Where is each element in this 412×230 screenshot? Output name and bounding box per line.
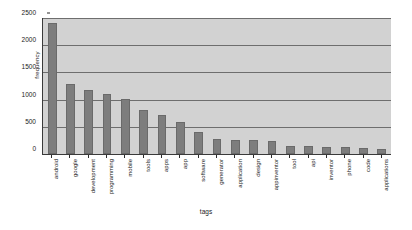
bar [231,140,240,154]
x-axis-tick-mark [289,155,290,158]
x-axis-tick-mark [308,155,309,158]
x-axis-tick-label: appinventor [273,159,279,190]
plot-area [42,18,391,155]
x-axis-tick-labels: androidgoogledevelopmentprogrammingmobil… [42,159,391,205]
x-axis-tick-mark [179,155,180,158]
y-axis-tick-label: 1500 [8,64,36,71]
x-axis-tick-label: api [310,159,316,167]
x-axis-tick-label: code [365,159,371,172]
x-axis-tick-label: applications [383,159,389,191]
x-axis-tick-mark [253,155,254,158]
bar [249,140,258,154]
x-axis-tick-label: programming [108,159,114,194]
bar [48,23,57,154]
y-axis-tick-label: 2500 [8,10,36,17]
x-axis-tick-label: mobile [127,159,133,177]
x-axis-tick-mark [326,155,327,158]
y-axis-tick-label: 0 [8,146,36,153]
x-axis-tick-mark [381,155,382,158]
bar-chart: frequency 05001000150020002500 androidgo… [0,0,412,230]
y-axis-tick-label: 2000 [8,37,36,44]
y-axis-tick-labels: 05001000150020002500 [8,13,36,155]
x-axis-tick-label: generator [218,159,224,185]
x-axis-tick-label: phone [346,159,352,176]
x-axis-tick-label: design [255,159,261,177]
x-axis-tick-label: inventor [328,159,334,180]
x-axis-tick-mark [271,155,272,158]
bar [304,146,313,154]
bar [286,146,295,154]
x-axis-tick-mark [234,155,235,158]
x-axis-tick-mark [198,155,199,158]
x-axis-tick-mark [51,155,52,158]
x-axis-tick-label: app [182,159,188,169]
bar [194,132,203,154]
bar [103,94,112,154]
bar-series [43,18,391,154]
bar [377,149,386,154]
x-axis-tick-mark [88,155,89,158]
x-axis-tick-mark [106,155,107,158]
bar [139,110,148,154]
x-axis-tick-label: tool [291,159,297,169]
bar [341,147,350,154]
x-axis-tick-mark [69,155,70,158]
x-axis-tick-mark [344,155,345,158]
x-axis-tick-label: application [237,159,243,188]
bar [121,99,130,154]
bar [268,141,277,154]
bar [213,139,222,154]
x-axis-tick-label: google [72,159,78,177]
x-axis-tick-mark [161,155,162,158]
y-axis-tick-label: 1000 [8,91,36,98]
x-axis-tick-label: apps [163,159,169,172]
bar [84,90,93,154]
x-axis-tick-mark [363,155,364,158]
y-axis-tick-mark [47,13,50,14]
bar [66,84,75,154]
x-axis-tick-mark [216,155,217,158]
bar [176,122,185,154]
y-axis-tick-label: 500 [8,119,36,126]
x-axis-tick-label: tools [145,159,151,172]
x-axis-tick-label: software [200,159,206,182]
x-axis-tick-label: android [53,159,59,179]
bar [322,147,331,154]
bar [158,115,167,154]
x-axis-tick-mark [124,155,125,158]
x-axis-tick-label: development [90,159,96,193]
x-axis-title: tags [0,208,412,215]
x-axis-tick-mark [143,155,144,158]
bar [359,148,368,154]
